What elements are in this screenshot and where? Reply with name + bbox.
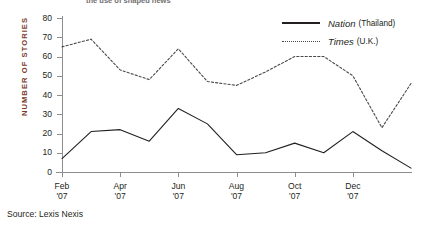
x-tick-mark: [295, 172, 296, 177]
y-tick-label: 0: [26, 168, 52, 176]
source-note: Source: Lexis Nexis: [7, 209, 83, 219]
y-tick-label: 30: [26, 110, 52, 118]
x-tick-label: Oct'07: [272, 181, 318, 201]
y-tick-label: 60: [26, 52, 52, 60]
y-tick-label: 80: [26, 14, 52, 22]
x-tick-label: Apr'07: [97, 181, 143, 201]
x-tick-mark: [178, 172, 179, 177]
series-lines: [62, 18, 411, 172]
y-tick-label: 50: [26, 71, 52, 79]
x-tick-label: Jun'07: [155, 181, 201, 201]
x-tick-label: Dec'07: [330, 181, 376, 201]
x-tick-mark: [237, 172, 238, 177]
x-tick-month: Feb: [55, 181, 70, 191]
y-tick-label: 40: [26, 91, 52, 99]
x-tick-label: Aug'07: [214, 181, 260, 201]
x-tick-year: '07: [272, 191, 318, 201]
x-tick-month: Apr: [113, 181, 126, 191]
series-line-times: [62, 39, 411, 128]
x-tick-year: '07: [330, 191, 376, 201]
news-stories-line-chart: the use of shaped news Nation (Thailand)…: [0, 0, 423, 226]
x-tick-month: Dec: [345, 181, 360, 191]
x-tick-month: Aug: [229, 181, 244, 191]
x-tick-year: '07: [97, 191, 143, 201]
x-tick-mark: [353, 172, 354, 177]
y-tick-label: 10: [26, 148, 52, 156]
series-line-nation: [62, 108, 411, 168]
chart-title: the use of shaped news: [86, 0, 286, 5]
x-tick-mark: [62, 172, 63, 177]
x-tick-label: Feb'07: [39, 181, 85, 201]
plot-area: [62, 18, 411, 172]
y-tick-label: 70: [26, 33, 52, 41]
x-tick-month: Jun: [171, 181, 185, 191]
x-tick-year: '07: [39, 191, 85, 201]
x-tick-year: '07: [214, 191, 260, 201]
x-tick-year: '07: [155, 191, 201, 201]
y-tick-label: 20: [26, 129, 52, 137]
x-axis-line: [56, 172, 412, 173]
x-tick-mark: [120, 172, 121, 177]
x-tick-month: Oct: [288, 181, 301, 191]
